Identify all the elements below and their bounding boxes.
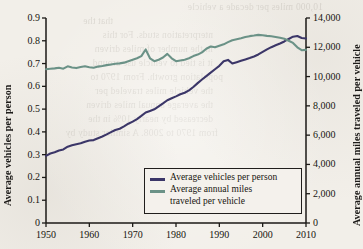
- legend-item: Average vehicles per person: [150, 172, 297, 183]
- legend-label-line2: traveled per vehicle: [170, 196, 245, 206]
- chart-legend: Average vehicles per person Average annu…: [144, 168, 302, 214]
- legend-swatch-miles-per-vehicle: [150, 190, 165, 193]
- legend-label: Average annual miles: [170, 184, 252, 194]
- chart-figure: Average vehicles per person Average annu…: [0, 0, 363, 249]
- legend-swatch-vehicles-per-person: [150, 178, 165, 181]
- legend-item: Average annual miles traveled per vehicl…: [150, 184, 297, 207]
- legend-label: Average vehicles per person: [170, 172, 277, 182]
